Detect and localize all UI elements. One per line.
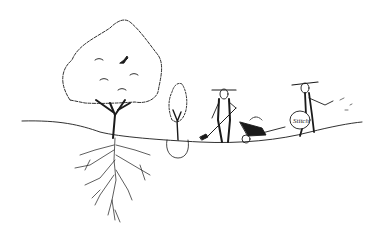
- wheelbarrow: [240, 117, 285, 143]
- sapling: [167, 83, 189, 158]
- ground-line: [22, 121, 362, 143]
- big-tree-roots: [75, 138, 150, 222]
- big-tree-canopy: [63, 20, 162, 103]
- bird-icon: [120, 56, 128, 63]
- man-with-sack: [290, 82, 352, 136]
- illustration: Stitch: [0, 0, 374, 240]
- man-with-shovel: [200, 89, 236, 142]
- sack-label: Stitch: [293, 117, 309, 125]
- root-ball: [167, 140, 189, 158]
